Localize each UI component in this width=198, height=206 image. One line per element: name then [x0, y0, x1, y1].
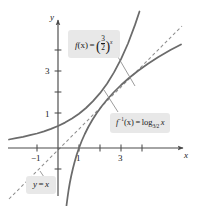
callout-finv-log: log: [142, 117, 153, 127]
callout-fx-arg: (x): [78, 40, 89, 50]
callout-finv-equals: =: [134, 117, 142, 127]
callout-logarithm-function: f−1(x)=log3/2x: [110, 113, 170, 133]
callout-yx-equals: =: [37, 179, 45, 189]
x-tick-label-3: 3: [118, 153, 123, 163]
x-tick-label-neg1: −1: [31, 153, 41, 163]
callout-fx-equals: =: [88, 40, 96, 50]
y-tick-label-1: 1: [45, 109, 50, 119]
x-tick-label-1: 1: [76, 153, 81, 163]
callout-fx-exponent: x: [110, 39, 112, 45]
callout-finv-var: x: [161, 117, 165, 127]
y-tick-label-3: 3: [45, 66, 50, 76]
open-paren: (: [96, 39, 101, 54]
y-axis-label: y: [50, 12, 54, 22]
callout-identity-line: y=x: [26, 176, 56, 194]
x-axis: [8, 145, 183, 152]
callout-finv-log-base: 3/2: [153, 123, 160, 129]
leader-line-exponential: [118, 57, 135, 86]
callout-exponential-function: f(x)=(32)x: [68, 30, 120, 58]
y-axis: [55, 20, 62, 196]
x-axis-label: x: [184, 150, 188, 160]
callout-finv-arg: (x): [124, 117, 134, 127]
figure-container: y x −1 1 3 1 3 f(x)=(32)x f−1(x)=log3/2x…: [0, 0, 198, 206]
callout-yx-rhs: x: [45, 179, 49, 189]
